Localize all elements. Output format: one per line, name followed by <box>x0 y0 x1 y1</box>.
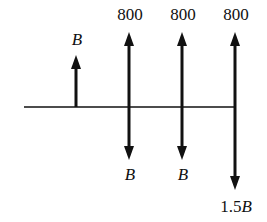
arrow-up-icon-receipt-1 <box>124 32 134 46</box>
arrow-down-icon-payment-1 <box>124 146 134 160</box>
label-payment-b-1: B <box>125 166 135 183</box>
label-payment-1-5b-var: B <box>241 197 251 216</box>
arrow-down-icon-payment-2 <box>177 146 187 160</box>
arrow-up-icon-receipt-2 <box>177 32 187 46</box>
cash-flow-graphic <box>0 0 267 222</box>
label-receipt-800-3: 800 <box>223 6 249 23</box>
arrow-up-icon-b-receipt <box>71 55 81 69</box>
arrow-down-icon-payment-3 <box>230 176 240 190</box>
label-b-receipt: B <box>72 31 82 48</box>
arrow-up-icon-receipt-3 <box>230 32 240 46</box>
label-payment-b-2: B <box>178 166 188 183</box>
label-payment-1-5b: 1.5B <box>220 198 252 215</box>
label-receipt-800-1: 800 <box>117 6 143 23</box>
cash-flow-diagram: B 800 800 800 B B 1.5B <box>0 0 267 222</box>
label-receipt-800-2: 800 <box>170 6 196 23</box>
label-payment-1-5b-coef: 1.5 <box>220 197 241 216</box>
